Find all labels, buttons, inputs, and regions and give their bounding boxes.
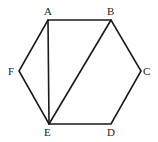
vertex-label-d: D: [107, 126, 115, 138]
diagonal-be: [49, 20, 111, 124]
vertex-label-b: B: [107, 5, 114, 17]
diagonal-ae: [48, 20, 49, 124]
hexagon-diagram: A B C D E F: [0, 0, 158, 142]
vertex-label-f: F: [8, 65, 14, 77]
vertex-label-c: C: [143, 65, 150, 77]
vertex-label-e: E: [44, 126, 51, 138]
vertex-label-a: A: [44, 5, 52, 17]
